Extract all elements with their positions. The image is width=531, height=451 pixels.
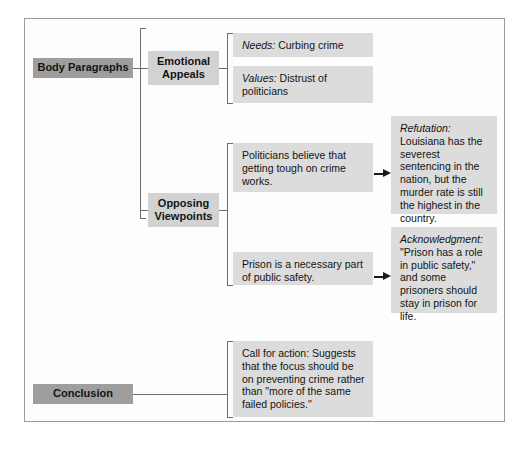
node-emotional-appeals-label-line1: Emotional [157,55,210,68]
arrow-to-refutation-icon [383,169,391,177]
node-opposing-viewpoints[interactable]: Opposing Viewpoints [148,193,219,227]
node-politicians-claim[interactable]: Politicians believe that getting tough o… [233,143,373,192]
bracket-cap-bottom-opposing [227,285,233,286]
node-conclusion[interactable]: Conclusion [33,384,133,404]
bracket-cap-bottom-conclusion [227,417,233,418]
node-prison-claim-text: Prison is a necessary part of public saf… [242,258,365,284]
connector-conclusion-to-bracket [133,394,227,395]
node-conclusion-label: Conclusion [53,387,113,400]
node-prison-claim[interactable]: Prison is a necessary part of public saf… [233,252,373,285]
bracket-cap-bottom-emotional [227,103,233,104]
bracket-spine-conclusion [227,341,228,417]
connector-emotional-to-bracket [219,68,227,69]
bracket-spine-body [140,28,141,219]
connector-bracket-to-emotional [140,68,148,69]
bracket-cap-bottom-body [140,218,146,219]
node-needs[interactable]: Needs: Curbing crime [233,33,373,57]
node-opposing-viewpoints-label-line2: Viewpoints [155,210,213,223]
node-call-for-action[interactable]: Call for action: Suggests that the focus… [233,341,373,417]
connector-opposing-to-bracket [219,210,227,211]
connector-body-to-bracket [133,68,140,69]
node-values-term: Values: [242,72,277,84]
node-acknowledgment-term: Acknowledgment: [400,233,483,245]
arrow-to-acknowledgment-icon [383,272,391,280]
bracket-cap-top-body [140,28,146,29]
connector-bracket-to-opposing [140,210,148,211]
node-refutation[interactable]: Refutation: Louisiana has the severest s… [391,116,497,214]
node-emotional-appeals[interactable]: Emotional Appeals [148,51,219,85]
node-refutation-term: Refutation: [400,122,451,134]
node-emotional-appeals-label-line2: Appeals [162,68,205,81]
node-refutation-text: Louisiana has the severest sentencing in… [400,135,483,224]
node-opposing-viewpoints-label-line1: Opposing [158,197,209,210]
node-body-paragraphs-label: Body Paragraphs [37,61,128,74]
node-body-paragraphs[interactable]: Body Paragraphs [33,58,133,78]
node-politicians-claim-text: Politicians believe that getting tough o… [242,149,365,187]
diagram-canvas: Body Paragraphs Conclusion Emotional App… [0,0,531,451]
node-call-for-action-text: Call for action: Suggests that the focus… [242,347,365,411]
node-needs-term: Needs: [242,39,275,51]
node-values[interactable]: Values: Distrust of politicians [233,66,373,103]
bracket-spine-opposing [227,143,228,285]
node-acknowledgment-text: "Prison has a role in public safety," an… [400,246,483,322]
node-needs-text: Curbing crime [275,39,343,51]
bracket-spine-emotional [227,33,228,103]
node-acknowledgment[interactable]: Acknowledgment: "Prison has a role in pu… [391,227,497,313]
